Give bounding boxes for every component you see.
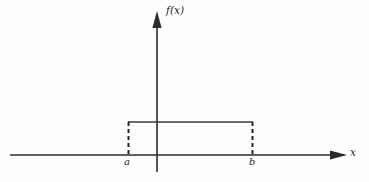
y-axis-arrow-icon (152, 11, 161, 28)
x-tick-label-a: a (124, 157, 130, 167)
x-tick-label-b: b (249, 157, 255, 167)
figure-canvas (0, 0, 369, 182)
uniform-distribution-figure: f(x) x a b (0, 0, 369, 182)
y-axis-label: f(x) (166, 5, 184, 16)
x-axis-arrow-icon (330, 150, 347, 159)
x-axis-label: x (350, 147, 356, 158)
